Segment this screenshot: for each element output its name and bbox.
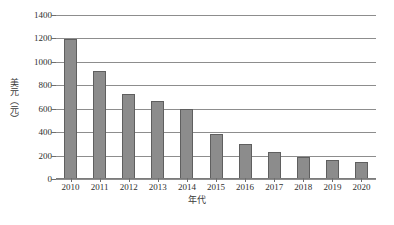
- x-axis-tick-label: 2018: [289, 182, 318, 193]
- x-axis-tick-label: 2014: [172, 182, 201, 193]
- bar[interactable]: [93, 71, 106, 179]
- y-axis-title: 美元（元）: [6, 60, 22, 140]
- x-axis-title: 年代: [0, 195, 394, 206]
- x-axis-tick-label: 2017: [260, 182, 289, 193]
- x-axis-tick-label: 2013: [143, 182, 172, 193]
- x-axis-tick-mark: [245, 178, 246, 182]
- bar-slot: [114, 15, 143, 179]
- bar[interactable]: [64, 39, 77, 179]
- bar[interactable]: [239, 144, 252, 179]
- x-axis-tick-label: 2020: [347, 182, 376, 193]
- x-tick-slot: 2016: [231, 182, 260, 196]
- y-axis-tick-label: 1200: [34, 34, 52, 43]
- bar[interactable]: [326, 160, 339, 179]
- x-axis-tick-mark: [274, 178, 275, 182]
- x-axis-tick-mark: [303, 178, 304, 182]
- x-axis-tick-label: 2010: [56, 182, 85, 193]
- x-axis-tick-mark: [158, 178, 159, 182]
- bar[interactable]: [355, 162, 368, 179]
- y-axis-tick-label: 400: [39, 128, 53, 137]
- bar[interactable]: [151, 101, 164, 179]
- bar-slot: [318, 15, 347, 179]
- bar-slot: [289, 15, 318, 179]
- x-axis-tick-label: 2016: [231, 182, 260, 193]
- x-axis-tick-mark: [129, 178, 130, 182]
- x-axis-tick-mark: [100, 178, 101, 182]
- x-tick-slot: 2017: [260, 182, 289, 196]
- x-tick-slot: 2015: [201, 182, 230, 196]
- x-tick-slot: 2010: [56, 182, 85, 196]
- bar-series: [56, 15, 376, 179]
- x-axis-tick-mark: [71, 178, 72, 182]
- y-axis-tick-label: 1000: [34, 57, 52, 66]
- y-axis-tick-labels: 1400120010008006004002000: [22, 15, 52, 179]
- x-axis-tick-label: 2011: [85, 182, 114, 193]
- x-axis-tick-mark: [332, 178, 333, 182]
- x-axis-tick-labels: 2010201120122013201420152016201720182019…: [56, 182, 376, 196]
- y-axis-tick-label: 1400: [34, 11, 52, 20]
- y-axis-tick-label: 600: [39, 104, 53, 113]
- plot-area: [56, 15, 376, 179]
- x-axis-tick-label: 2015: [201, 182, 230, 193]
- bar-slot: [85, 15, 114, 179]
- bar-slot: [56, 15, 85, 179]
- bar-slot: [172, 15, 201, 179]
- bar[interactable]: [180, 109, 193, 179]
- bar[interactable]: [210, 134, 223, 179]
- bar-slot: [143, 15, 172, 179]
- bar[interactable]: [122, 94, 135, 180]
- x-tick-slot: 2011: [85, 182, 114, 196]
- bar[interactable]: [268, 152, 281, 179]
- y-axis-tick-mark: [51, 179, 56, 180]
- x-tick-slot: 2012: [114, 182, 143, 196]
- bar-chart: 美元（元） 1400120010008006004002000 20102011…: [0, 0, 394, 225]
- x-tick-slot: 2013: [143, 182, 172, 196]
- bar-slot: [347, 15, 376, 179]
- x-axis-tick-mark: [361, 178, 362, 182]
- y-axis-tick-label: 800: [39, 81, 53, 90]
- x-tick-slot: 2014: [172, 182, 201, 196]
- x-axis-tick-label: 2019: [318, 182, 347, 193]
- bar-slot: [231, 15, 260, 179]
- bar[interactable]: [297, 157, 310, 179]
- x-axis-tick-label: 2012: [114, 182, 143, 193]
- x-tick-slot: 2019: [318, 182, 347, 196]
- x-axis-tick-mark: [187, 178, 188, 182]
- bar-slot: [201, 15, 230, 179]
- bar-slot: [260, 15, 289, 179]
- x-tick-slot: 2020: [347, 182, 376, 196]
- y-axis-tick-label: 200: [39, 151, 53, 160]
- x-tick-slot: 2018: [289, 182, 318, 196]
- x-axis-tick-mark: [216, 178, 217, 182]
